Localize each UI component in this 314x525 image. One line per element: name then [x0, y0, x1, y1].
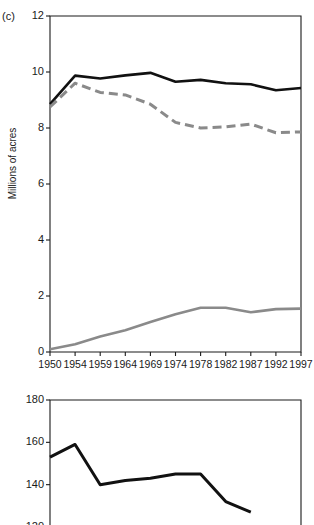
plot-canvas — [0, 0, 314, 525]
panel-d-series-yield — [50, 444, 251, 512]
panel-c-plot-frame — [50, 16, 301, 352]
figure: (c) Millions of acres (d) 12108642019501… — [0, 0, 314, 525]
panel-c-series-irrigated — [50, 308, 301, 349]
panel-c-series-non-irrigated — [50, 83, 301, 133]
